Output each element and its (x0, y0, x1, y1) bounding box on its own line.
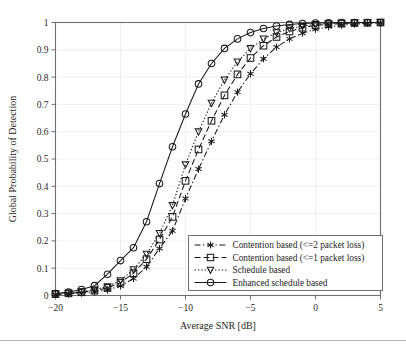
legend-label: Contention based (<=2 packet loss) (233, 240, 365, 251)
x-axis-title: Average SNR [dB] (180, 320, 256, 331)
legend-label: Contention based (<=1 packet loss) (233, 253, 365, 264)
y-axis-title: Global Probability of Detection (7, 96, 18, 222)
legend: Contention based (<=2 packet loss)Conten… (189, 236, 383, 291)
y-tick-label: 0.4 (37, 182, 49, 192)
x-axis: −20−15−10−505 (48, 296, 383, 313)
y-axis: 00.10.20.30.40.50.60.70.80.91 (37, 18, 56, 301)
chart-svg: 00.10.20.30.40.50.60.70.80.91−20−15−10−5… (0, 0, 406, 344)
x-tick-label: −20 (48, 303, 63, 313)
chart-figure: 00.10.20.30.40.50.60.70.80.91−20−15−10−5… (0, 0, 406, 344)
x-tick-label: 0 (313, 303, 318, 313)
x-tick-label: −10 (178, 303, 193, 313)
legend-label: Enhanced schedule based (233, 278, 328, 288)
y-tick-label: 0.8 (37, 73, 49, 83)
x-tick-label: 5 (378, 303, 383, 313)
y-tick-label: 0.1 (37, 264, 49, 274)
x-tick-label: −15 (113, 303, 128, 313)
y-tick-label: 0.3 (37, 209, 49, 219)
y-tick-label: 0.7 (37, 100, 49, 110)
y-tick-label: 1 (44, 18, 49, 28)
y-tick-label: 0.2 (37, 236, 49, 246)
x-tick-label: −5 (245, 303, 255, 313)
y-tick-label: 0.5 (37, 154, 49, 164)
y-tick-label: 0 (44, 291, 49, 301)
y-tick-label: 0.9 (37, 45, 49, 55)
y-tick-label: 0.6 (37, 127, 49, 137)
legend-label: Schedule based (233, 265, 291, 275)
